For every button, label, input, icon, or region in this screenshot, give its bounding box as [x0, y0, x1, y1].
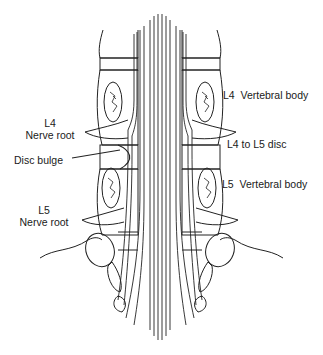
upper-vertebra-left	[99, 30, 138, 58]
l4-vertebral-body-left	[97, 70, 138, 145]
l4-vertebral-body-right	[182, 70, 223, 145]
label-l4-nerve-root-line2: Nerve root	[20, 129, 80, 141]
label-l4-vertebral-body: L4 Vertebral body	[223, 89, 308, 101]
label-l5-nerve-root: L5 Nerve root	[14, 204, 74, 228]
sacral-foramen-left	[108, 262, 122, 292]
label-l5-nerve-root-line2: Nerve root	[14, 216, 74, 228]
label-l4-nerve-root: L4 Nerve root	[20, 117, 80, 141]
disc-bulge-leader	[72, 150, 120, 158]
l5-pedicle-left	[102, 168, 120, 208]
disc-upper-left	[100, 58, 138, 70]
label-l4-nerve-root-line1: L4	[20, 117, 80, 129]
l5-nerve-root-right	[196, 208, 238, 225]
l4-nerve-root-left	[85, 120, 128, 139]
l5-pedicle-right	[198, 168, 216, 208]
sacral-foramen-right	[199, 262, 213, 292]
label-l5-nerve-root-line1: L5	[14, 204, 74, 216]
l4-pedicle-left	[104, 82, 122, 122]
label-l5-vertebral-body: L5 Vertebral body	[222, 178, 307, 190]
l4-nerve-root-right	[192, 120, 236, 139]
cauda-equina	[118, 14, 202, 340]
label-disc-bulge: Disc bulge	[14, 154, 63, 166]
sacral-ala-right	[220, 238, 283, 258]
label-l4-l5-disc: L4 to L5 disc	[227, 138, 287, 150]
upper-vertebra-right	[182, 30, 221, 58]
l4-pedicle-right	[196, 82, 214, 122]
disc-upper-right	[182, 58, 220, 70]
sacral-ala-left	[40, 238, 102, 258]
l5-nerve-root-left	[82, 208, 124, 225]
